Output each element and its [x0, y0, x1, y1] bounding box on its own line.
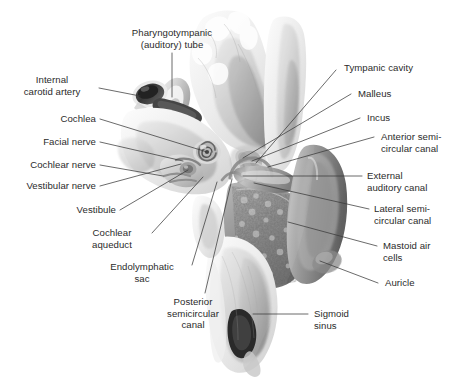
- label-cochlea: Cochlea: [26, 113, 96, 125]
- anatomy-figure: Pharyngotympanic (auditory) tubeInternal…: [0, 0, 462, 387]
- label-tympanic-cavity: Tympanic cavity: [344, 62, 454, 74]
- label-malleus: Malleus: [358, 88, 438, 100]
- label-vestibule: Vestibule: [46, 204, 116, 216]
- label-endolymphatic-sac: Endolymphatic sac: [96, 261, 188, 284]
- label-external-auditory-canal: External auditory canal: [367, 170, 461, 193]
- label-cochlear-nerve: Cochlear nerve: [6, 159, 96, 171]
- label-layer: Pharyngotympanic (auditory) tubeInternal…: [0, 0, 462, 387]
- label-lateral-semicircular-canal: Lateral semi- circular canal: [374, 203, 458, 226]
- label-mastoid-air-cells: Mastoid air cells: [383, 240, 459, 263]
- label-internal-carotid-artery: Internal carotid artery: [8, 74, 96, 97]
- label-cochlear-aqueduct: Cochlear aqueduct: [76, 227, 148, 250]
- label-posterior-semicircular-canal: Posterior semicircular canal: [152, 296, 234, 331]
- label-anterior-semicircular-canal: Anterior semi- circular canal: [381, 131, 461, 154]
- label-incus: Incus: [367, 112, 437, 124]
- label-auricle: Auricle: [385, 277, 455, 289]
- label-pharyngotympanic-tube: Pharyngotympanic (auditory) tube: [113, 27, 231, 50]
- label-sigmoid-sinus: Sigmoid sinus: [314, 308, 380, 331]
- label-facial-nerve: Facial nerve: [16, 136, 96, 148]
- label-vestibular-nerve: Vestibular nerve: [2, 180, 96, 192]
